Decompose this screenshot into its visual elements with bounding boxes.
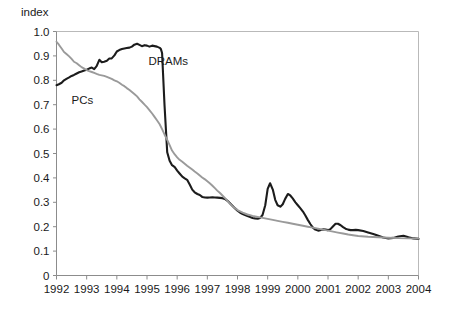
x-tick-label: 1999 [255,283,281,295]
chart-figure: index 1.00.90.80.70.60.50.40.30.20.10 19… [0,0,449,320]
y-tick-label: 0.8 [34,74,50,86]
x-tick-label: 1994 [104,283,130,295]
line-chart-plot: 1.00.90.80.70.60.50.40.30.20.10 19921993… [0,0,449,320]
series-annotations: DRAMsPCs [72,55,189,106]
y-tick-label: 0.6 [34,123,50,135]
y-tick-label: 0.2 [34,221,50,233]
x-tick-label: 2004 [406,283,432,295]
series-label-drams: DRAMs [149,55,189,67]
x-tick-label: 2002 [345,283,371,295]
y-tick-label: 0.7 [34,99,50,111]
x-tick-label: 1998 [225,283,251,295]
x-tick-label: 1996 [164,283,190,295]
x-tick-label: 1993 [74,283,100,295]
plot-border [57,32,419,276]
series-line-pcs [57,42,419,239]
y-tick-label: 0.4 [34,172,51,184]
x-axis-ticks: 1992199319941995199619971998199920002001… [44,276,432,295]
y-tick-label: 0.5 [34,148,50,160]
x-tick-label: 1992 [44,283,70,295]
x-tick-label: 1997 [195,283,221,295]
plot-frame [57,32,419,276]
y-tick-label: 1.0 [34,26,50,38]
y-tick-label: 0.9 [34,50,50,62]
plot-axes [57,32,419,276]
x-tick-label: 1995 [134,283,160,295]
y-tick-label: 0 [43,270,49,282]
x-tick-label: 2003 [376,283,402,295]
data-series-group [57,42,419,239]
x-tick-label: 2001 [315,283,341,295]
y-axis-ticks: 1.00.90.80.70.60.50.40.30.20.10 [34,26,57,282]
y-tick-label: 0.1 [34,245,50,257]
series-label-pcs: PCs [72,94,94,106]
y-tick-label: 0.3 [34,196,50,208]
x-tick-label: 2000 [285,283,311,295]
